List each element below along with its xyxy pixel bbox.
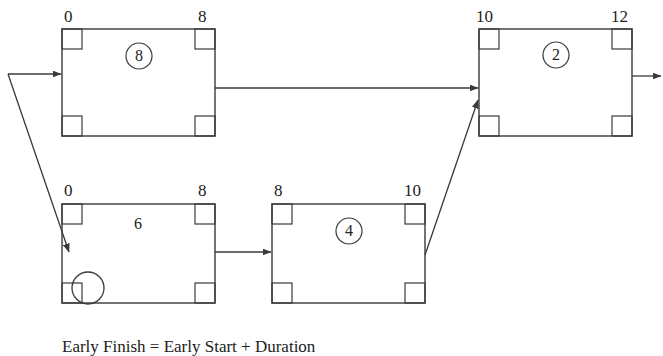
node-b-early-finish-label: 12 — [611, 8, 628, 25]
node-a-early-finish-label: 8 — [198, 8, 207, 25]
node-c-corner-tr — [195, 204, 215, 224]
node-a-corner-tl — [62, 29, 82, 49]
node-b-duration-value: 2 — [548, 47, 564, 63]
node-d-early-finish-label: 10 — [404, 182, 421, 199]
edge-node-d-to-node-b — [425, 100, 478, 255]
node-a-corner-bl — [62, 116, 82, 136]
node-b-corner-tl — [479, 29, 499, 49]
node-d-duration-value: 4 — [341, 223, 357, 239]
node-d-box — [272, 204, 425, 303]
diagram-caption: Early Finish = Early Start + Duration — [62, 338, 315, 356]
node-a-corner-br — [195, 116, 215, 136]
node-b-early-start-label: 10 — [476, 8, 493, 25]
node-d-early-start-label: 8 — [274, 182, 283, 199]
node-d-corner-tr — [405, 204, 425, 224]
node-c-early-finish-label: 8 — [198, 182, 207, 199]
node-c-corner-tl — [62, 204, 82, 224]
node-b-corner-tr — [612, 29, 632, 49]
node-d-corner-tl — [272, 204, 292, 224]
node-b-corner-bl — [479, 116, 499, 136]
node-c-marker-circle — [72, 272, 104, 304]
network-diagram: 0 8 8 10 12 2 0 8 6 8 10 4 Early Finish … — [0, 0, 663, 356]
node-d-corner-br — [405, 283, 425, 303]
node-c-duration-value: 6 — [129, 216, 147, 232]
node-c-corner-br — [195, 283, 215, 303]
node-a-corner-tr — [195, 29, 215, 49]
node-a-early-start-label: 0 — [64, 8, 73, 25]
node-b-corner-br — [612, 116, 632, 136]
node-a-box — [62, 29, 215, 136]
node-c-early-start-label: 0 — [64, 182, 73, 199]
node-a-duration-value: 8 — [131, 48, 147, 64]
edge-start-to-node-c — [8, 74, 69, 252]
node-d-corner-bl — [272, 283, 292, 303]
